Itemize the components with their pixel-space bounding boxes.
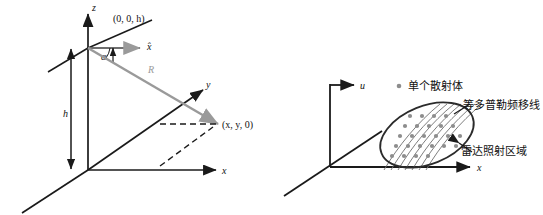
scatterer-legend-label: 单个散射体 [408,79,463,93]
x-axis-label-right: x [476,162,482,173]
ground-point-label: (x, y, 0) [222,119,253,131]
y-axis-extension [22,170,88,213]
height-label: h [63,108,68,119]
dashed-projection-diagonal [160,127,213,166]
y-axis-line [88,90,203,170]
alpha-angle-arc [106,48,110,58]
platform-point-label: (0, 0, h) [113,13,145,25]
left-panel-radar-geometry: z y x (0, 0, h) x̂ α R [0,0,272,215]
oblique-axis [284,131,382,196]
z-axis-label: z [91,2,96,13]
y-axis-label: y [205,79,211,90]
platform-track-line-lower [48,48,88,72]
right-panel-footprint: u x [272,0,543,215]
left-panel-svg: z y x (0, 0, h) x̂ α R [0,0,272,215]
figure-canvas: z y x (0, 0, h) x̂ α R [0,0,543,215]
right-panel-svg: u x [272,0,543,215]
xhat-label: x̂ [146,41,152,52]
scatterer-dots [390,114,462,158]
platform-track-line-upper [88,20,152,48]
range-label: R [147,64,154,75]
iso-doppler-label: 等多普勒频移线 [463,98,540,112]
u-axis-label: u [360,80,365,91]
footprint-label: 雷达照射区域 [461,144,527,158]
scatterer-legend-dot-icon [397,84,402,89]
slant-range-arrow [88,48,218,124]
x-axis-label: x [221,165,227,176]
